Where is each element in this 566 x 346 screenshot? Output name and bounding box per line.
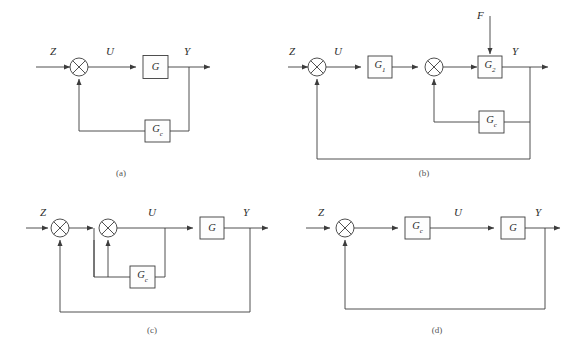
block-label-gc-a: Gc [152, 124, 163, 137]
block-label-g-a: G [152, 62, 160, 73]
block-label-g1-b-main: G [374, 59, 382, 70]
signal-label-z-d: Z [318, 207, 324, 218]
block-label-g1-b: G1 [374, 60, 385, 73]
diagram-d [306, 217, 560, 309]
figure-canvas: Z U Y G Gc (a) Z U Y F G1 G2 Gc (b) Z U … [0, 0, 566, 346]
diagram-b [288, 16, 548, 159]
signal-label-f-b: F [477, 10, 484, 21]
signal-label-z-b: Z [289, 46, 295, 57]
block-label-g-d: G [509, 223, 517, 234]
block-label-g2-b: G2 [484, 60, 495, 73]
signal-label-z-a: Z [50, 46, 56, 57]
signal-label-y-a: Y [184, 46, 190, 57]
block-label-g1-b-sub: 1 [382, 66, 386, 74]
block-label-gc-d-main: G [412, 220, 420, 231]
block-label-gc-d: Gc [412, 221, 423, 234]
signal-label-y-c: Y [243, 207, 249, 218]
block-label-g2-b-main: G [484, 59, 492, 70]
signal-label-u-b: U [334, 46, 342, 57]
block-label-g-a-main: G [152, 61, 160, 72]
signal-label-y-d: Y [535, 207, 541, 218]
diagram-c [26, 217, 268, 312]
block-label-gc-c-sub: c [145, 276, 148, 284]
caption-b: (b) [419, 168, 430, 178]
signal-label-y-b: Y [512, 46, 518, 57]
block-label-gc-a-sub: c [160, 130, 163, 138]
block-label-gc-d-sub: c [420, 227, 423, 235]
block-label-gc-a-main: G [152, 123, 160, 134]
block-label-gc-b-sub: c [494, 121, 497, 129]
diagram-a [36, 56, 210, 143]
block-diagram-vector-layer [0, 0, 566, 346]
block-label-g-c: G [208, 223, 216, 234]
block-label-gc-c: Gc [137, 270, 148, 283]
caption-c: (c) [147, 325, 157, 335]
block-label-g2-b-sub: 2 [492, 66, 496, 74]
signal-label-u-c: U [148, 207, 156, 218]
block-label-gc-b-main: G [486, 114, 494, 125]
signal-label-u-d: U [454, 207, 462, 218]
block-label-g-d-main: G [509, 222, 517, 233]
block-label-g-c-main: G [208, 222, 216, 233]
caption-a: (a) [116, 168, 126, 178]
block-label-gc-c-main: G [137, 269, 145, 280]
signal-label-z-c: Z [40, 207, 46, 218]
caption-d: (d) [432, 325, 443, 335]
signal-label-u-a: U [106, 46, 114, 57]
block-label-gc-b: Gc [486, 115, 497, 128]
